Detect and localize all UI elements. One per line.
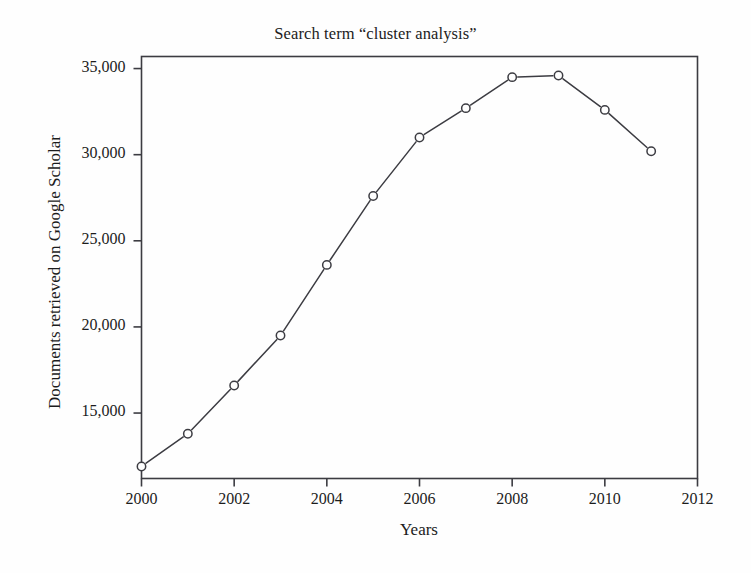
data-point-marker (230, 381, 238, 389)
y-tick-label: 30,000 (4, 144, 126, 162)
x-tick-label: 2002 (189, 490, 279, 508)
y-tick-label: 15,000 (4, 402, 126, 420)
x-tick-label: 2010 (560, 490, 650, 508)
data-point-marker (462, 104, 470, 112)
data-point-marker (323, 261, 331, 269)
x-tick-label: 2004 (282, 490, 372, 508)
data-point-marker (647, 147, 655, 155)
x-tick-label: 2008 (467, 490, 557, 508)
x-tick-label: 2012 (653, 490, 743, 508)
x-tick-label: 2006 (375, 490, 465, 508)
data-markers (137, 71, 655, 470)
axis-frame (142, 57, 698, 479)
data-point-marker (276, 331, 284, 339)
x-tick-marks (142, 479, 698, 487)
data-point-marker (508, 73, 516, 81)
y-tick-marks (134, 69, 142, 413)
y-tick-label: 35,000 (4, 58, 126, 76)
data-point-marker (184, 430, 192, 438)
data-point-marker (601, 106, 609, 114)
plot-area (0, 0, 751, 573)
data-line (146, 76, 647, 464)
chart-figure: Search term “cluster analysis” Documents… (0, 0, 751, 573)
y-tick-label: 20,000 (4, 316, 126, 334)
data-point-marker (415, 133, 423, 141)
data-point-marker (137, 462, 145, 470)
data-point-marker (554, 71, 562, 79)
y-tick-label: 25,000 (4, 230, 126, 248)
x-tick-label: 2000 (97, 490, 187, 508)
data-point-marker (369, 192, 377, 200)
